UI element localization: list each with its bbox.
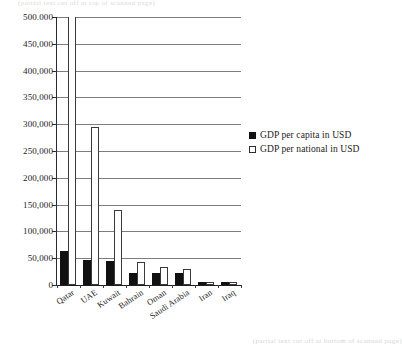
page-top-cut-text: (partial text cut off at top of scanned …: [0, 0, 402, 8]
bar-saudi-arabia-capita: [175, 273, 183, 285]
x-axis-tick: [149, 285, 150, 288]
bar-oman-capita: [152, 273, 160, 285]
hollow-square-icon: [249, 146, 256, 153]
y-axis-label: 350,000: [1, 93, 53, 102]
legend-item: GDP per national in USD: [249, 142, 360, 156]
bar-group: [106, 17, 122, 285]
bar-group: [83, 17, 99, 285]
x-axis-tick: [195, 285, 196, 288]
y-axis-label: 150,000: [1, 201, 53, 210]
bar-oman-national: [160, 267, 168, 285]
y-axis-label: 250,000: [1, 147, 53, 156]
legend-label: GDP per national in USD: [260, 142, 360, 156]
x-axis-tick: [172, 285, 173, 288]
bar-group: [175, 17, 191, 285]
page-bottom-cut-text: (partial text cut off at bottom of scann…: [0, 337, 402, 347]
filled-square-icon: [249, 132, 256, 139]
bar-group: [221, 17, 237, 285]
bar-iraq-capita: [221, 282, 229, 285]
bar-bahrain-national: [137, 262, 145, 285]
y-axis-label: 500.000: [1, 13, 53, 22]
bar-group: [129, 17, 145, 285]
bar-uae-capita: [83, 260, 91, 285]
bar-saudi-arabia-national: [183, 269, 191, 285]
bar-group: [60, 17, 76, 285]
gdp-bar-chart-figure: (partial text cut off at top of scanned …: [0, 0, 402, 348]
y-axis-label: 0: [1, 281, 53, 290]
y-axis-label: 300,000: [1, 120, 53, 129]
bar-qatar-capita: [60, 251, 68, 285]
x-axis-tick: [126, 285, 127, 288]
legend-label: GDP per capita in USD: [260, 128, 351, 142]
x-axis-tick: [218, 285, 219, 288]
y-axis-label: 400,000: [1, 67, 53, 76]
bar-qatar-national: [68, 17, 76, 285]
bar-group: [152, 17, 168, 285]
bar-group: [198, 17, 214, 285]
x-axis-tick: [80, 285, 81, 288]
bar-iran-capita: [198, 282, 206, 285]
x-axis-tick: [241, 285, 242, 288]
y-axis-label: 450,000: [1, 40, 53, 49]
bar-uae-national: [91, 127, 99, 285]
y-axis-label: 200,000: [1, 174, 53, 183]
x-axis-tick: [103, 285, 104, 288]
bar-kuwait-national: [114, 210, 122, 285]
bar-kuwait-capita: [106, 261, 114, 285]
bar-iran-national: [206, 282, 214, 285]
plot-area: [57, 17, 241, 285]
y-axis-label: 100,000: [1, 227, 53, 236]
y-axis-label: 50,000: [1, 254, 53, 263]
bar-bahrain-capita: [129, 273, 137, 285]
x-axis-tick: [57, 285, 58, 288]
bar-iraq-national: [229, 282, 237, 285]
chart-legend: GDP per capita in USDGDP per national in…: [249, 128, 360, 156]
legend-item: GDP per capita in USD: [249, 128, 360, 142]
